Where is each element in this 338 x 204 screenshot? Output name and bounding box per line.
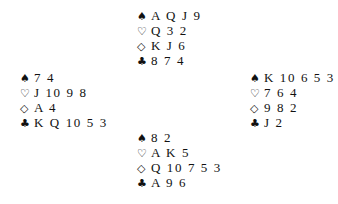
diamond-icon: ◇: [250, 101, 264, 116]
south-diamonds-cards: Q 10 7 5 3: [151, 160, 222, 175]
north-spades-cards: A Q J 9: [151, 8, 202, 23]
east-clubs-cards: J 2: [264, 115, 284, 130]
club-icon: ♣: [137, 54, 151, 69]
south-spades-cards: 8 2: [151, 130, 172, 145]
east-spades-cards: K 10 6 5 3: [264, 70, 335, 85]
west-hearts-cards: J 10 9 8: [34, 85, 88, 100]
west-clubs: ♣K Q 10 5 3: [20, 115, 108, 130]
diamond-icon: ◇: [137, 161, 151, 176]
south-hearts: ♡A K 5: [137, 145, 222, 160]
west-spades-cards: 7 4: [34, 70, 55, 85]
east-hearts-cards: 7 6 4: [264, 85, 298, 100]
north-diamonds: ◇K J 6: [137, 38, 202, 53]
south-hand: ♠8 2 ♡A K 5 ◇Q 10 7 5 3 ♣A 9 6: [137, 130, 222, 190]
north-hearts-cards: Q 3 2: [151, 23, 188, 38]
west-hand: ♠7 4 ♡J 10 9 8 ◇A 4 ♣K Q 10 5 3: [20, 70, 108, 130]
heart-icon: ♡: [20, 86, 34, 101]
diamond-icon: ◇: [20, 101, 34, 116]
club-icon: ♣: [20, 116, 34, 131]
north-spades: ♠A Q J 9: [137, 8, 202, 23]
west-diamonds-cards: A 4: [34, 100, 57, 115]
spade-icon: ♠: [137, 9, 151, 24]
east-diamonds: ◇9 8 2: [250, 100, 335, 115]
south-spades: ♠8 2: [137, 130, 222, 145]
east-clubs: ♣J 2: [250, 115, 335, 130]
heart-icon: ♡: [250, 86, 264, 101]
south-diamonds: ◇Q 10 7 5 3: [137, 160, 222, 175]
south-hearts-cards: A K 5: [151, 145, 190, 160]
south-clubs: ♣A 9 6: [137, 175, 222, 190]
east-hand: ♠K 10 6 5 3 ♡7 6 4 ◇9 8 2 ♣J 2: [250, 70, 335, 130]
east-spades: ♠K 10 6 5 3: [250, 70, 335, 85]
north-hand: ♠A Q J 9 ♡Q 3 2 ◇K J 6 ♣8 7 4: [137, 8, 202, 68]
north-diamonds-cards: K J 6: [151, 38, 186, 53]
heart-icon: ♡: [137, 146, 151, 161]
diamond-icon: ◇: [137, 39, 151, 54]
club-icon: ♣: [250, 116, 264, 131]
north-hearts: ♡Q 3 2: [137, 23, 202, 38]
west-spades: ♠7 4: [20, 70, 108, 85]
heart-icon: ♡: [137, 24, 151, 39]
west-hearts: ♡J 10 9 8: [20, 85, 108, 100]
north-clubs: ♣8 7 4: [137, 53, 202, 68]
west-diamonds: ◇A 4: [20, 100, 108, 115]
east-diamonds-cards: 9 8 2: [264, 100, 298, 115]
club-icon: ♣: [137, 176, 151, 191]
south-clubs-cards: A 9 6: [151, 175, 187, 190]
north-clubs-cards: 8 7 4: [151, 53, 185, 68]
east-hearts: ♡7 6 4: [250, 85, 335, 100]
west-clubs-cards: K Q 10 5 3: [34, 115, 108, 130]
spade-icon: ♠: [137, 131, 151, 146]
spade-icon: ♠: [20, 71, 34, 86]
spade-icon: ♠: [250, 71, 264, 86]
